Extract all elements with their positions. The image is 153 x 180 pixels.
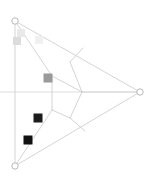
markers-layer <box>13 29 53 145</box>
marker-square-m-mid-gray[interactable] <box>44 74 53 83</box>
diagram-canvas: Triangular mesh graph with node markers <box>0 0 153 180</box>
graph-node-n-right[interactable] <box>137 89 143 95</box>
graph-node-n-top-left[interactable] <box>12 18 18 24</box>
graph-edge-e-bottom-to-right <box>15 92 140 166</box>
marker-square-m-faint-right[interactable] <box>35 36 43 44</box>
graph-svg <box>0 0 153 180</box>
graph-edge-e-brace-upper <box>70 48 83 62</box>
graph-edge-e-hub-upper <box>70 62 82 92</box>
graph-node-n-bottom-left[interactable] <box>12 163 18 169</box>
marker-square-m-faint-upper[interactable] <box>17 29 25 37</box>
graph-edge-e-hub-lower <box>70 92 82 118</box>
graph-edge-e-core-to-lower <box>52 110 70 118</box>
nodes-layer <box>12 18 143 169</box>
marker-square-m-dark-lower[interactable] <box>24 136 33 145</box>
marker-square-m-dark-upper[interactable] <box>34 114 43 123</box>
marker-square-m-light-left[interactable] <box>13 37 21 45</box>
graph-edge-e-core-to-hub <box>52 76 82 92</box>
